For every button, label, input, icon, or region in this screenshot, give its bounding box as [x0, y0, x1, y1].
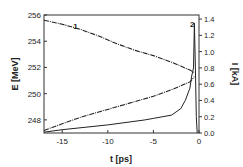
y-tick-label: 250	[28, 90, 42, 99]
series-line	[44, 77, 194, 131]
y2-tick-label: 0.4	[204, 96, 214, 105]
y2-tick-label: 1.4	[204, 15, 214, 24]
y2-tick-label: 0.2	[204, 113, 214, 122]
series-line	[44, 20, 194, 72]
x-tick-label: -15	[56, 137, 68, 146]
x-tick-label: 0	[197, 137, 202, 146]
y2-tick-label: 0.0	[204, 129, 214, 138]
y-tick-label: 256	[28, 11, 42, 20]
plot-frame	[44, 15, 199, 133]
y2-tick-label: 0.6	[204, 80, 214, 89]
chart: 12 -15-10-502482502522542560.00.20.40.60…	[0, 0, 243, 167]
y2-tick-label: 1.2	[204, 31, 214, 40]
curve-label: 2	[190, 20, 195, 29]
y2-tick-label: 0.8	[204, 64, 214, 73]
y-tick-label: 248	[28, 116, 42, 125]
curve-label: 1	[73, 22, 78, 31]
x-tick-label: -10	[102, 137, 114, 146]
series-line	[44, 23, 197, 133]
y-tick-label: 254	[28, 37, 42, 46]
y-tick-label: 252	[28, 63, 42, 72]
x-axis-label: t [ps]	[110, 154, 132, 164]
y-axis-label: E [MeV]	[10, 57, 20, 90]
y2-tick-label: 1.0	[204, 48, 214, 57]
y2-axis-label: I [kA]	[230, 63, 240, 86]
x-tick-label: -5	[150, 137, 158, 146]
